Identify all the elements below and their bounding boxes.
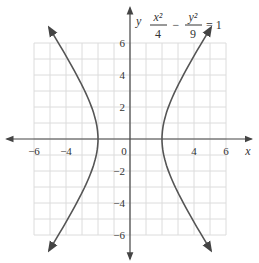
- svg-text:x²: x²: [153, 10, 163, 24]
- y-tick-label: 6: [120, 37, 126, 49]
- x-tick-label: −6: [28, 145, 40, 157]
- y-tick-label: 2: [120, 101, 126, 113]
- y-tick-label: −6: [113, 229, 125, 241]
- x-tick-label: −4: [60, 145, 72, 157]
- x-tick-label: 4: [191, 145, 197, 157]
- x-axis-label: x: [244, 144, 251, 158]
- x-tick-label: 0: [121, 145, 127, 157]
- equation-label: x²4−y²9= 1: [150, 10, 222, 41]
- y-axis-label: y: [135, 14, 142, 28]
- svg-text:y²: y²: [188, 10, 198, 24]
- y-tick-label: 4: [120, 69, 126, 81]
- hyperbola-chart: −6−4046642−2−4−6xyx²4−y²9= 1: [0, 0, 259, 263]
- y-tick-label: −2: [113, 165, 125, 177]
- x-tick-label: 6: [223, 145, 229, 157]
- svg-text:4: 4: [155, 27, 161, 41]
- y-tick-label: −4: [113, 197, 125, 209]
- svg-text:−: −: [173, 18, 180, 32]
- svg-text:= 1: = 1: [206, 18, 222, 32]
- svg-text:9: 9: [190, 27, 196, 41]
